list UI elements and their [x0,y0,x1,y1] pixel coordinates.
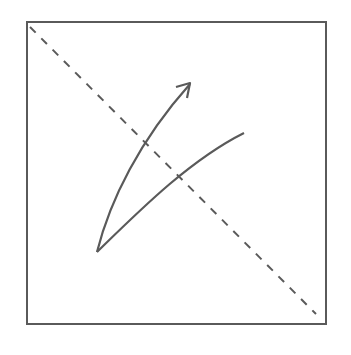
dashed-diagonal [30,27,316,314]
diagram-canvas [0,0,351,355]
